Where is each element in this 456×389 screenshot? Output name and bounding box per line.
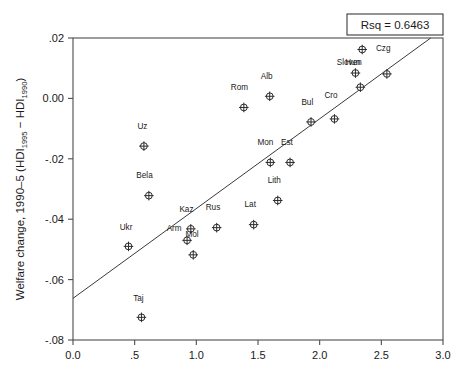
data-point-label: Bela: [136, 171, 153, 180]
data-point-label: Arm: [167, 224, 182, 233]
data-point: Uz: [137, 122, 148, 151]
data-point-label: Rus: [206, 203, 221, 212]
data-point: Est: [281, 138, 295, 167]
data-point-label: Uz: [137, 122, 147, 131]
data-point-label: Sloven: [337, 58, 362, 67]
data-point-label: Lat: [245, 200, 257, 209]
x-tick-label: 1.5: [250, 349, 265, 361]
x-tick-label: 2.0: [312, 349, 327, 361]
regression-fit-line: [73, 38, 431, 298]
data-point: Sloven: [337, 58, 365, 92]
x-tick-label: 0.0: [65, 349, 80, 361]
data-point-label: Mon: [257, 138, 273, 147]
data-point-label: Taj: [133, 294, 144, 303]
data-point: Taj: [133, 294, 146, 322]
scatter-plot-figure: .020.00-.02-.04-.06-.080.0.51.01.52.02.5…: [0, 0, 456, 389]
data-point: Lat: [245, 200, 259, 229]
data-point: Ukr: [120, 223, 134, 251]
data-point-label: Kaz: [179, 205, 193, 214]
data-point: Alb: [261, 72, 275, 101]
y-tick-label: -.04: [45, 213, 64, 225]
y-tick-label: -.02: [45, 153, 64, 165]
data-point: Rus: [206, 203, 222, 232]
data-point-label: Ukr: [120, 223, 133, 232]
data-point-label: Cro: [324, 91, 338, 100]
data-point: Czg: [376, 44, 392, 78]
data-point-label: Rom: [231, 83, 248, 92]
x-tick-label: 1.0: [189, 349, 204, 361]
data-point-label: Lith: [268, 176, 282, 185]
data-point: Bul: [301, 98, 315, 127]
data-point: Rom: [231, 83, 249, 112]
y-tick-label: -.06: [45, 274, 64, 286]
data-point: Lith: [268, 176, 283, 205]
x-tick-label: 3.0: [435, 349, 450, 361]
x-tick-label: 2.5: [374, 349, 389, 361]
data-point-label: Czg: [376, 44, 391, 53]
data-point-label: Bul: [301, 98, 313, 107]
y-tick-label: .02: [49, 32, 64, 44]
y-axis-title: Welfare change, 1990–5 (HDI1995 − HDI199…: [14, 78, 29, 301]
rsq-annotation-text: Rsq = 0.6463: [361, 19, 430, 31]
y-tick-label: 0.00: [43, 92, 64, 104]
data-point: Cro: [324, 91, 339, 124]
data-point-label: Est: [281, 138, 294, 147]
plot-frame: [73, 38, 443, 340]
data-point-label: Mol: [185, 230, 198, 239]
data-point-label: Alb: [261, 72, 273, 81]
y-tick-label: -.08: [45, 334, 64, 346]
welfare-change-scatter-chart: .020.00-.02-.04-.06-.080.0.51.01.52.02.5…: [0, 0, 456, 389]
data-point: Bela: [136, 171, 153, 200]
x-tick-label: .5: [130, 349, 139, 361]
